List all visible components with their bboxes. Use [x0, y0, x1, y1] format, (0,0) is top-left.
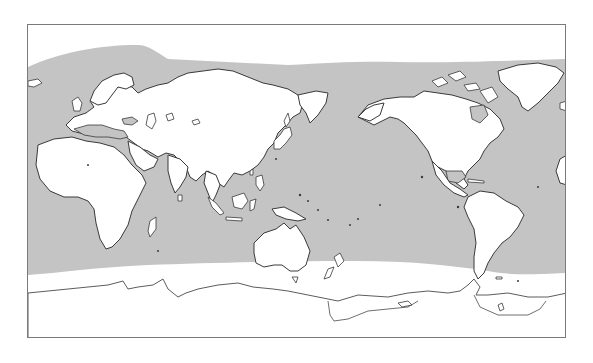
world-map	[27, 24, 566, 338]
tasmania	[292, 277, 298, 283]
falkland-islands	[496, 277, 502, 279]
antarctica	[28, 279, 566, 338]
map-canvas	[28, 25, 566, 338]
java	[226, 217, 242, 221]
new-zealand-south	[324, 267, 334, 279]
ireland-right-edge	[560, 101, 566, 111]
aral-sea-outline	[166, 113, 174, 121]
sri-lanka	[178, 195, 182, 201]
